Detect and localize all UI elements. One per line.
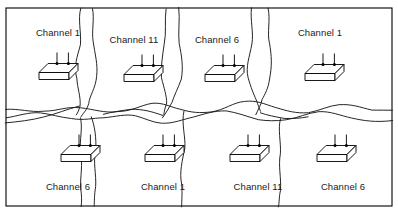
divider-vertical-top-c2	[256, 8, 271, 115]
access-point-cell-bottom-2	[145, 135, 184, 162]
ap-antenna-base-1	[322, 63, 325, 66]
ap-antenna-base-1	[78, 144, 81, 147]
ap-antenna-base-2	[233, 64, 236, 67]
access-point-cell-top-4	[305, 54, 344, 81]
ap-antenna-base-1	[162, 144, 165, 147]
access-points	[39, 53, 356, 162]
divider-vertical-bottom-b	[181, 111, 185, 207]
access-point-cell-top-1	[39, 53, 78, 80]
divider-vertical-top-a2	[81, 9, 97, 118]
channel-label-cell-bottom-1: Channel 6	[46, 181, 90, 192]
access-point-cell-top-2	[124, 55, 163, 82]
ap-front-face	[61, 155, 91, 162]
divider-vertical-top-b1	[161, 9, 166, 115]
ap-antenna-base-2	[67, 62, 70, 65]
ap-antenna-base-1	[334, 144, 337, 147]
channel-label-cell-top-4: Channel 1	[298, 27, 342, 38]
channel-label-cell-bottom-3: Channel 11	[234, 181, 283, 192]
divider-vertical-top-c1	[247, 8, 260, 111]
channel-label-cell-top-3: Channel 6	[195, 34, 239, 45]
ap-front-face	[124, 75, 154, 82]
channel-label-cell-bottom-2: Channel 1	[141, 181, 185, 192]
channel-label-cell-top-2: Channel 11	[110, 34, 159, 45]
ap-front-face	[230, 155, 260, 162]
ap-front-face	[205, 75, 235, 82]
diagram-canvas: Channel 1Channel 11Channel 6Channel 1Cha…	[0, 0, 398, 214]
cell-labels: Channel 1Channel 11Channel 6Channel 1Cha…	[36, 27, 365, 192]
ap-antenna-base-1	[222, 64, 225, 67]
ap-antenna-base-2	[333, 63, 336, 66]
channel-label-cell-top-1: Channel 1	[36, 27, 80, 38]
ap-antenna-base-1	[247, 144, 250, 147]
ap-front-face	[305, 74, 335, 81]
ap-antenna-base-1	[141, 64, 144, 67]
access-point-cell-top-3	[205, 55, 244, 82]
ap-antenna-base-2	[89, 144, 92, 147]
wireless-channel-reuse-figure: Channel 1Channel 11Channel 6Channel 1Cha…	[0, 0, 398, 214]
access-point-cell-bottom-4	[317, 135, 356, 162]
access-point-cell-bottom-3	[230, 135, 269, 162]
divider-vertical-top-a1	[76, 8, 81, 115]
ap-antenna-base-2	[345, 144, 348, 147]
branch-top-left-junction	[5, 106, 79, 123]
divider-vertical-bottom-a2	[91, 117, 96, 206]
ap-antenna-base-1	[56, 62, 59, 65]
ap-front-face	[145, 155, 175, 162]
ap-antenna-base-2	[173, 144, 176, 147]
ap-antenna-base-2	[258, 144, 261, 147]
channel-label-cell-bottom-4: Channel 6	[321, 181, 365, 192]
ap-front-face	[317, 155, 347, 162]
branch-mid-junction	[103, 109, 162, 115]
divider-vertical-bottom-c	[278, 119, 280, 207]
ap-front-face	[39, 73, 69, 80]
divider-vertical-bottom-a	[80, 119, 81, 207]
ap-antenna-base-2	[152, 64, 155, 67]
